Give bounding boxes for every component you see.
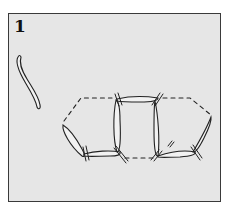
dashed-connectors xyxy=(64,98,211,158)
loop-diagram xyxy=(0,0,227,209)
loop-chain xyxy=(63,97,211,158)
single-loop-strand xyxy=(17,56,40,109)
